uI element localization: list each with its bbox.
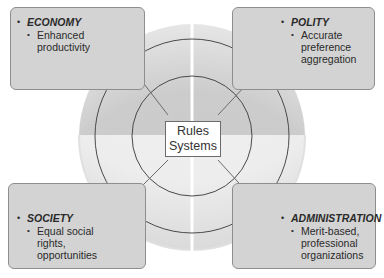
polity-line-1: Accurate xyxy=(301,29,342,41)
administration-box: ADMINISTRATION Merit-based, professional… xyxy=(232,183,376,269)
polity-title: POLITY xyxy=(281,16,368,28)
administration-line-3: organizations xyxy=(301,249,363,261)
society-title: SOCIETY xyxy=(17,212,139,224)
society-line-2: rights, xyxy=(37,237,66,249)
administration-title: ADMINISTRATION xyxy=(281,212,371,224)
polity-line-2: preference xyxy=(301,41,351,53)
economy-title: ECONOMY xyxy=(17,16,138,28)
economy-box: ECONOMY Enhanced productivity xyxy=(10,7,145,90)
society-line-3: opportunities xyxy=(37,249,97,261)
economy-line-2: productivity xyxy=(37,41,90,53)
center-label: Rules Systems xyxy=(165,121,221,157)
economy-line-1: Enhanced xyxy=(37,29,84,41)
administration-line-1: Merit-based, xyxy=(301,225,359,237)
center-label-line-2: Systems xyxy=(169,139,217,153)
society-line-1: Equal social xyxy=(37,225,94,237)
society-box: SOCIETY Equal social rights, opportuniti… xyxy=(8,183,146,269)
polity-box: POLITY Accurate preference aggregation xyxy=(232,7,375,90)
economy-item: Enhanced productivity xyxy=(27,29,138,53)
polity-line-3: aggregation xyxy=(301,53,356,65)
polity-item: Accurate preference aggregation xyxy=(291,29,368,65)
administration-item: Merit-based, professional organizations xyxy=(291,225,371,261)
administration-line-2: professional xyxy=(301,237,358,249)
society-item: Equal social rights, opportunities xyxy=(27,225,139,261)
center-label-line-1: Rules xyxy=(177,124,209,138)
